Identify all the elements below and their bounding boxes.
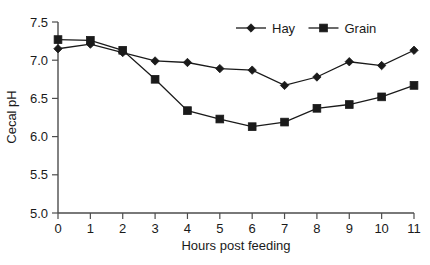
data-point [216, 115, 224, 123]
data-point [151, 57, 159, 65]
x-tick-label: 0 [54, 221, 61, 236]
y-tick-label: 5.5 [30, 167, 48, 182]
data-point [86, 36, 94, 44]
x-tick-label: 11 [407, 221, 421, 236]
data-point [248, 123, 256, 131]
y-tick-label: 6.5 [30, 91, 48, 106]
x-tick-label: 9 [346, 221, 353, 236]
data-point [281, 118, 289, 126]
x-tick-label: 2 [119, 221, 126, 236]
data-point [345, 101, 353, 109]
x-tick-label: 8 [313, 221, 320, 236]
x-axis-title: Hours post feeding [181, 238, 290, 253]
series-line-grain [58, 40, 414, 127]
series-hay [54, 40, 418, 90]
data-point [377, 61, 385, 69]
y-axis-title: Cecal pH [4, 90, 19, 143]
x-tick-label: 10 [374, 221, 388, 236]
y-tick-label: 7.5 [30, 15, 48, 30]
x-tick-label: 4 [184, 221, 191, 236]
data-point [410, 46, 418, 54]
x-tick-label: 3 [151, 221, 158, 236]
data-point [183, 58, 191, 66]
data-point [119, 46, 127, 54]
y-tick-label: 7.0 [30, 53, 48, 68]
cecal-ph-line-chart: 5.05.56.06.57.07.5 01234567891011 HayGra… [0, 0, 430, 265]
series-line-hay [58, 44, 414, 85]
data-point [184, 107, 192, 115]
data-point [54, 36, 62, 44]
data-point [248, 66, 256, 74]
data-point [216, 64, 224, 72]
data-point [151, 75, 159, 83]
x-tick-label: 5 [216, 221, 223, 236]
data-point [378, 93, 386, 101]
legend-label-hay: Hay [272, 21, 296, 36]
data-series-layer [54, 36, 418, 131]
x-axis-ticks [58, 213, 414, 219]
legend-marker-grain [320, 24, 328, 32]
x-tick-label: 1 [87, 221, 94, 236]
x-tick-label: 7 [281, 221, 288, 236]
series-grain [54, 36, 418, 131]
y-tick-label: 6.0 [30, 129, 48, 144]
data-point [345, 58, 353, 66]
data-point [313, 104, 321, 112]
chart-legend: HayGrain [236, 21, 376, 36]
data-point [54, 45, 62, 53]
y-axis-tick-labels: 5.05.56.06.57.07.5 [30, 15, 48, 221]
legend-marker-hay [247, 24, 255, 32]
data-point [280, 81, 288, 89]
data-point [313, 73, 321, 81]
legend-label-grain: Grain [345, 21, 377, 36]
x-tick-label: 6 [249, 221, 256, 236]
x-axis-tick-labels: 01234567891011 [54, 221, 420, 236]
data-point [410, 82, 418, 90]
chart-container: 5.05.56.06.57.07.5 01234567891011 HayGra… [0, 0, 430, 265]
y-tick-label: 5.0 [30, 206, 48, 221]
